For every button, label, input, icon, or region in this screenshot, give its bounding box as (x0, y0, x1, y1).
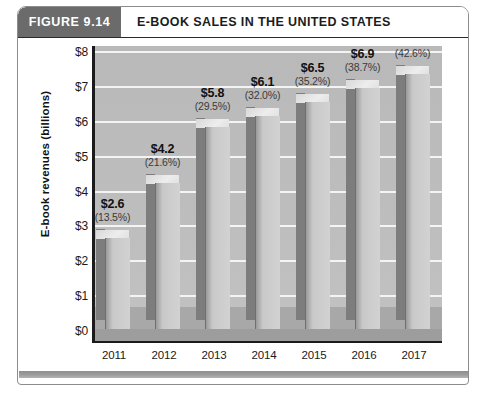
figure-title: E-BOOK SALES IN THE UNITED STATES (121, 7, 468, 37)
bar-percent-label: (35.2%) (278, 75, 348, 88)
bar-front-face (105, 238, 130, 329)
y-axis-tick-label: $3 (56, 219, 88, 233)
bar-value-label: $4.2 (128, 142, 198, 156)
y-axis-tick-label: $8 (56, 45, 88, 59)
bar-2015[interactable] (305, 102, 329, 329)
bar-side-face (96, 229, 105, 320)
y-axis-tick-label: $2 (56, 254, 88, 268)
bar-front-face (355, 88, 380, 329)
plot-floor-front (95, 329, 442, 341)
figure-header: FIGURE 9.14 E-BOOK SALES IN THE UNITED S… (18, 7, 468, 38)
bar-front-face (255, 116, 280, 329)
bar-side-face (396, 65, 405, 320)
bar-percent-label: (38.7%) (328, 61, 398, 74)
bar-side-face (246, 107, 255, 320)
x-axis-tick-label: 2017 (384, 349, 444, 361)
bar-2011[interactable] (105, 238, 129, 329)
y-axis-tick-label: $7 (56, 80, 88, 94)
bar-side-face (346, 79, 355, 320)
bar-percent-label: (21.6%) (128, 156, 198, 169)
y-axis-tick-label: $1 (56, 289, 88, 303)
bar-data-label: $4.2(21.6%) (128, 142, 198, 169)
bar-2017[interactable] (405, 74, 429, 329)
bar-front-face (205, 127, 230, 329)
bar-value-label: $2.6 (95, 197, 148, 211)
bar-side-face (296, 93, 305, 320)
bar-percent-label: (42.6%) (378, 47, 443, 60)
bar-front-face (305, 102, 330, 329)
chart-body: E-book revenues (billions) $0$1$2$3$4$5$… (18, 38, 470, 378)
bar-2014[interactable] (255, 116, 279, 329)
bar-data-label: $2.6(13.5%) (95, 197, 148, 224)
figure-card: FIGURE 9.14 E-BOOK SALES IN THE UNITED S… (17, 6, 469, 385)
plot-frame: $2.6(13.5%)$4.2(21.6%)$5.8(29.5%)$6.1(32… (92, 46, 442, 343)
y-axis-tick-labels: $0$1$2$3$4$5$6$7$8 (56, 38, 88, 378)
y-axis-tick-label: $5 (56, 150, 88, 164)
figure-footer-rule (19, 371, 468, 378)
bar-2012[interactable] (155, 183, 179, 329)
figure-number-badge: FIGURE 9.14 (18, 7, 121, 37)
plot-area: $2.6(13.5%)$4.2(21.6%)$5.8(29.5%)$6.1(32… (95, 46, 442, 341)
bar-percent-label: (32.0%) (228, 89, 298, 102)
bar-front-face (405, 74, 430, 329)
bar-2016[interactable] (355, 88, 379, 329)
bar-2013[interactable] (205, 127, 229, 329)
y-axis-title: E-book revenues (billions) (39, 69, 51, 259)
x-axis-tick-labels: 2011201220132014201520162017 (92, 347, 442, 369)
y-axis-tick-label: $4 (56, 185, 88, 199)
y-axis-tick-label: $0 (56, 324, 88, 338)
bar-percent-label: (13.5%) (95, 211, 148, 224)
bar-data-label: $7.3(42.6%) (378, 46, 443, 60)
y-axis-tick-label: $6 (56, 115, 88, 129)
bar-side-face (146, 174, 155, 320)
bar-front-face (155, 183, 180, 329)
bar-side-face (196, 118, 205, 320)
